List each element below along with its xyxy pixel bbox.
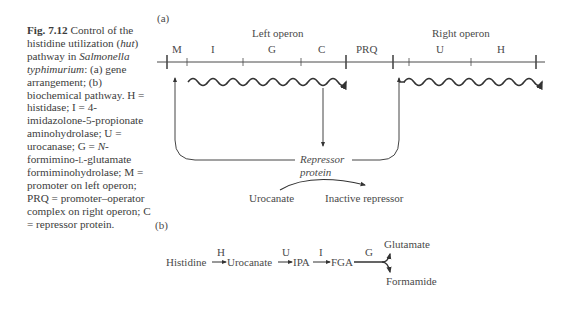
product-formamide: Formamide	[386, 275, 437, 287]
right-mrna-transcript	[404, 79, 542, 86]
substrate-fga: FGA	[331, 256, 353, 268]
substrate-urocanate: Urocanate	[227, 256, 272, 268]
right-operon-label: Right operon	[432, 27, 490, 39]
product-glutamate: Glutamate	[384, 238, 430, 250]
repressor-label-2: protein	[299, 166, 332, 178]
substrate-histidine: Histidine	[166, 256, 206, 268]
panel-b-label: (b)	[155, 219, 168, 232]
substrate-ipa: IPA	[293, 256, 310, 268]
gene-G: G	[268, 43, 276, 55]
repression-arrow-right	[352, 78, 399, 160]
gene-H: H	[497, 43, 505, 55]
enzyme-I: I	[319, 246, 323, 258]
gene-I: I	[211, 43, 215, 55]
repression-arrow-left	[175, 78, 295, 160]
branch-arrow-formamide	[382, 262, 390, 272]
enzyme-U: U	[282, 246, 290, 258]
inactive-repressor: Inactive repressor	[325, 192, 404, 204]
urocanate-inducer: Urocanate	[249, 192, 294, 204]
chromosome-line	[157, 55, 545, 69]
gene-C: C	[318, 43, 325, 55]
left-operon-label: Left operon	[252, 27, 304, 39]
operon-diagram: (a) Left operon Right operon M I G C PRQ…	[0, 0, 578, 313]
repressor-label: Repressor	[299, 153, 345, 165]
gene-U: U	[436, 43, 444, 55]
left-mrna-transcript	[188, 79, 346, 86]
panel-a-label: (a)	[157, 12, 170, 25]
enzyme-H: H	[217, 246, 225, 258]
enzyme-G: G	[365, 246, 373, 258]
gene-PRQ: PRQ	[356, 43, 377, 55]
gene-M: M	[172, 43, 182, 55]
inactivation-arrow	[280, 180, 365, 190]
